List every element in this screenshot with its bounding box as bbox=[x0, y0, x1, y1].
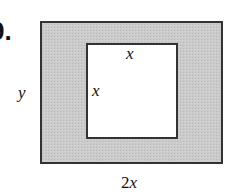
inner-left-label: x bbox=[92, 82, 100, 99]
inner-top-label: x bbox=[126, 45, 134, 62]
outer-width-label: 2x bbox=[121, 174, 137, 191]
outer-height-label: y bbox=[18, 84, 26, 101]
diagram-canvas: 9. y x x 2x bbox=[0, 0, 240, 196]
outer-width-text: 2x bbox=[121, 173, 137, 192]
problem-number: 9. bbox=[0, 18, 12, 44]
rectangle-diagram bbox=[0, 0, 240, 196]
